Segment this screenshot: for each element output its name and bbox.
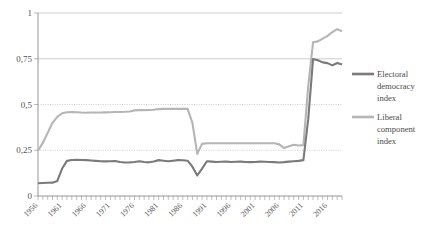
gridlines [38,13,342,150]
x-tick-label-1956: 1956 [22,201,40,219]
legend-label-electoral-line2: democracy [377,81,415,91]
y-axis-ticks [34,13,38,196]
legend-label-liberal-line2: component [377,124,416,134]
x-tick-label-2006: 2006 [263,201,281,219]
line-chart: 1 0,75 0,5 0,25 0 1956196119661971197619… [0,0,429,246]
x-tick-label-2001: 2001 [239,201,257,219]
series-line-electoral-democracy-index [38,59,342,183]
x-tick-label-2011: 2011 [287,201,304,218]
legend: Electoral democracy index Liberal compon… [352,69,416,146]
series-line-liberal-component-index [38,29,342,154]
chart-container: 1 0,75 0,5 0,25 0 1956196119661971197619… [0,0,429,246]
y-tick-label-1: 1 [28,8,33,18]
x-axis-minor-ticks [38,196,342,200]
y-tick-label-05: 0,5 [21,100,33,110]
y-tick-label-075: 0,75 [16,54,32,64]
legend-label-liberal-line3: index [377,136,397,146]
x-tick-label-1961: 1961 [46,201,64,219]
x-tick-label-1991: 1991 [191,201,209,219]
legend-label-electoral-line3: index [377,93,397,103]
y-tick-label-0: 0 [28,191,33,201]
series-group [38,29,342,183]
legend-label-electoral-line1: Electoral [377,69,409,79]
x-tick-label-2016: 2016 [311,201,329,219]
x-tick-label-1966: 1966 [70,201,88,219]
x-tick-label-1986: 1986 [166,201,184,219]
x-tick-label-1976: 1976 [118,201,136,219]
y-axis-labels: 1 0,75 0,5 0,25 0 [16,8,32,201]
x-axis-labels: 1956196119661971197619811986199119962001… [22,201,329,219]
y-tick-label-025: 0,25 [16,145,32,155]
x-tick-label-1971: 1971 [94,201,112,219]
legend-label-liberal-line1: Liberal [377,112,402,122]
x-tick-label-1981: 1981 [142,201,160,219]
x-tick-label-1996: 1996 [215,201,233,219]
